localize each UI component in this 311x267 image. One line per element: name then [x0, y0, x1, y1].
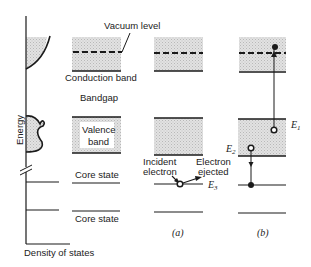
- e1-hole: [271, 127, 277, 133]
- e2-arrowhead: [249, 162, 254, 167]
- auger-electron: [272, 44, 278, 50]
- panel-a-label: (a): [172, 227, 184, 239]
- core-electron-filled: [248, 182, 254, 188]
- energy-axis-label: Energy: [14, 115, 25, 145]
- incident-electron-label-2: electron: [143, 166, 177, 177]
- panel-b-conduction-fill: [239, 37, 286, 71]
- e3-label: E3: [207, 179, 218, 192]
- bandgap-label: Bandgap: [80, 92, 118, 103]
- conduction-band-fill: [72, 37, 121, 71]
- core-state-label-1: Core state: [75, 169, 119, 180]
- panel-a-conduction-fill: [154, 37, 203, 71]
- panel-b-label: (b): [257, 227, 269, 239]
- panel-a-valence-fill: [154, 118, 203, 155]
- valence-band-label-2: band: [88, 136, 109, 147]
- photoemission-diagram: Energy Density of states Vacuum level Co…: [0, 0, 311, 267]
- vacuum-level-label: Vacuum level: [104, 20, 160, 31]
- e1-label: E1: [290, 119, 301, 132]
- core-state-label-2: Core state: [75, 213, 119, 224]
- valence-band-label-1: Valence: [82, 124, 116, 135]
- vacuum-level-pointer: [122, 33, 130, 52]
- e2-hole: [248, 145, 254, 151]
- panel-b-valence-fill: [238, 119, 286, 156]
- electron-ejected-label-2: ejected: [198, 166, 229, 177]
- core-hole: [177, 181, 183, 187]
- e2-label: E2: [225, 143, 236, 156]
- band-diagram-reference: Vacuum level Conduction band Bandgap Val…: [65, 20, 160, 224]
- panel-b: E1 E2 (b): [225, 37, 301, 239]
- dos-axis-label: Density of states: [24, 247, 94, 258]
- conduction-band-label: Conduction band: [65, 72, 137, 83]
- panel-a: Incident electron Electron ejected E3 (a…: [143, 37, 231, 239]
